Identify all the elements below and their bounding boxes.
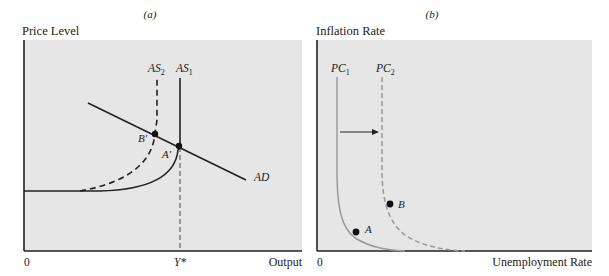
- label-point-a: A: [364, 223, 372, 235]
- panel-a-y-axis-label: Price Level: [22, 24, 80, 38]
- point-a-prime: [176, 143, 182, 149]
- panel-a: (a) Price Level B′ A′ AD AS2 AS1 0 Y* Ou…: [22, 8, 303, 269]
- panel-b-y-axis-label: Inflation Rate: [316, 24, 386, 38]
- panel-b: (b) Inflation Rate B A PC1 PC2 0 Unemplo…: [316, 8, 592, 269]
- label-ad: AD: [253, 171, 270, 183]
- point-b-prime: [152, 131, 158, 137]
- panel-b-title: (b): [426, 8, 439, 21]
- point-a: [353, 229, 360, 236]
- point-b: [387, 201, 394, 208]
- panel-b-origin-label: 0: [317, 256, 323, 268]
- panel-a-origin-label: 0: [24, 256, 30, 268]
- panel-b-plot-area: [317, 40, 592, 251]
- label-a-prime: A′: [161, 148, 172, 160]
- panel-a-x-axis-label: Output: [269, 255, 303, 269]
- panel-a-title: (a): [144, 8, 157, 21]
- figure: (a) Price Level B′ A′ AD AS2 AS1 0 Y* Ou…: [0, 0, 609, 276]
- panel-b-x-axis-label: Unemployment Rate: [492, 255, 592, 269]
- label-point-b: B: [398, 198, 405, 210]
- ystar-tick-label: Y*: [174, 256, 186, 268]
- label-b-prime: B′: [138, 132, 148, 144]
